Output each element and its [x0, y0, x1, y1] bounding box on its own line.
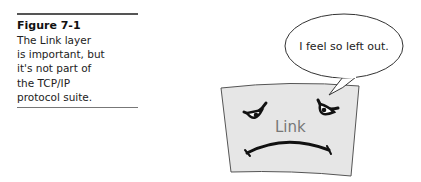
speech-bubble: I feel so left out. — [285, 14, 403, 95]
link-character: Link — [221, 83, 359, 176]
character-label: Link — [275, 118, 306, 136]
link-layer-illustration: Link I feel so left out. — [0, 0, 421, 182]
speech-bubble-text: I feel so left out. — [299, 40, 388, 53]
